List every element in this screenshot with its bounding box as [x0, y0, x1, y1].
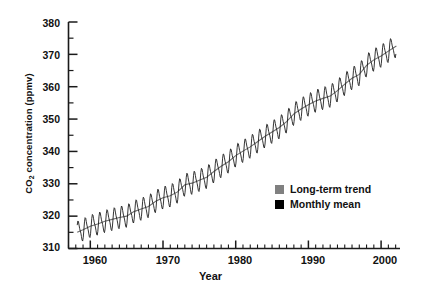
series-long-term-trend [77, 46, 396, 232]
chart-figure: CO2 concentration (ppmv) Year 380 370 36… [0, 0, 421, 294]
axis-spines [69, 22, 401, 249]
x-axis-ticks [69, 241, 396, 249]
series-monthly-mean [77, 39, 396, 241]
chart-plot-area [0, 0, 421, 294]
y-axis-ticks [69, 22, 78, 249]
